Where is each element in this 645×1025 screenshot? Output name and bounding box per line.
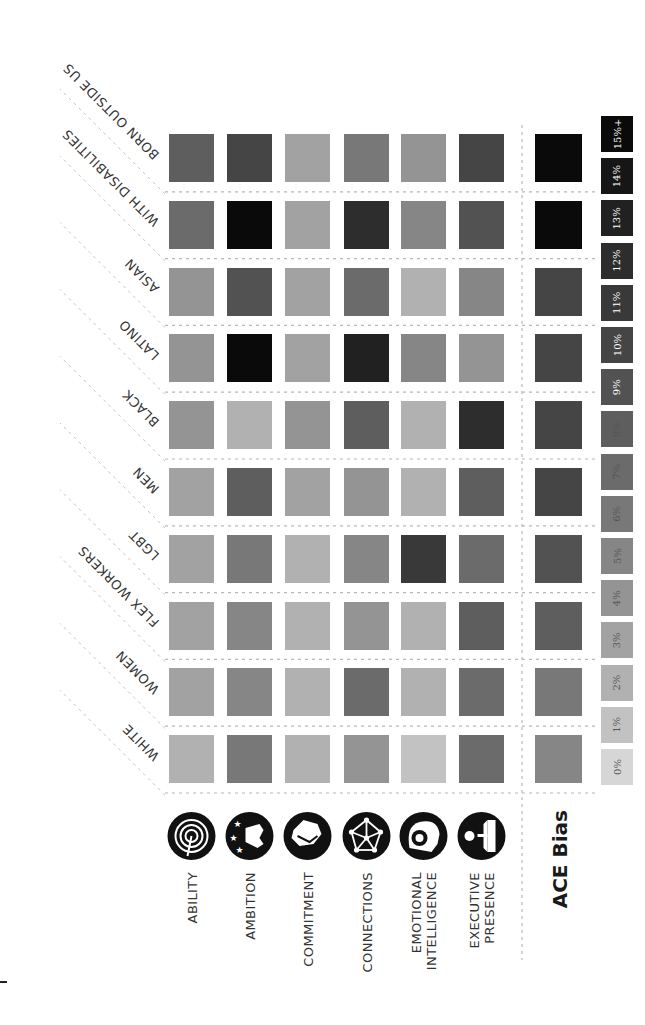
heatmap-cell <box>169 401 214 449</box>
heatmap-cell <box>227 735 272 783</box>
legend-label: 7% <box>612 464 623 480</box>
heatmap-cell <box>401 268 446 316</box>
heatmap-cell <box>459 468 504 516</box>
legend-label: 0% <box>612 759 623 775</box>
heatmap-cell <box>459 535 504 583</box>
heatmap-cell <box>285 602 330 650</box>
heatmap-cell <box>285 401 330 449</box>
legend-label: 3% <box>612 632 623 648</box>
ace-bias-heatmap: 15%+14%13%12%11%10%9%8%7%6%5%4%3%2%1%0% … <box>0 0 645 1025</box>
ace-bias-label: ACE Bias <box>548 810 572 908</box>
trait-label: EXECUTIVE <box>467 872 482 948</box>
podium-speaker-icon <box>458 812 506 860</box>
heatmap-cell <box>285 668 330 716</box>
legend-label: 12% <box>612 249 623 271</box>
heatmap-cell <box>285 535 330 583</box>
heatmap-cell <box>344 201 389 249</box>
head-heart-icon <box>400 812 448 860</box>
heatmap-cell <box>169 535 214 583</box>
heatmap-cell <box>401 468 446 516</box>
heatmap-cell <box>344 468 389 516</box>
group-label: MEN <box>130 464 162 496</box>
ace-bias-cell <box>535 735 582 783</box>
group-label: WOMEN <box>113 648 162 697</box>
heatmap-cell <box>401 334 446 382</box>
heatmap-cell <box>344 602 389 650</box>
trait-label: COMMITMENT <box>301 872 316 967</box>
heatmap-cell <box>344 668 389 716</box>
legend-label: 6% <box>612 506 623 522</box>
ace-bias-cell <box>535 602 582 650</box>
heatmap-cell <box>344 134 389 182</box>
heatmap-cell <box>459 735 504 783</box>
legend-label: 14% <box>612 165 623 187</box>
ace-bias-cell <box>535 535 582 583</box>
group-label: ASIAN <box>122 256 162 296</box>
heatmap-cell <box>344 401 389 449</box>
svg-text:★: ★ <box>233 819 241 829</box>
heatmap-cell <box>401 668 446 716</box>
ace-bias-cell <box>535 268 582 316</box>
heatmap-cell <box>344 334 389 382</box>
group-label: BLACK <box>120 387 163 430</box>
ace-bias-cell <box>535 334 582 382</box>
trait-labels: ABILITYAMBITIONCOMMITMENTCONNECTIONSEMOT… <box>185 872 498 973</box>
trait-label: EMOTIONAL <box>409 872 424 953</box>
group-label: WHITE <box>120 721 163 764</box>
ace-bias-cell <box>535 668 582 716</box>
handshake-icon <box>284 812 332 860</box>
heatmap-cell <box>169 468 214 516</box>
svg-text:★: ★ <box>229 833 237 843</box>
heatmap-cell <box>227 134 272 182</box>
heatmap-cell <box>169 602 214 650</box>
heatmap-cell <box>227 268 272 316</box>
heatmap-cell <box>401 201 446 249</box>
heatmap-cell <box>285 468 330 516</box>
trait-label: INTELLIGENCE <box>424 872 439 970</box>
heatmap-cell <box>401 535 446 583</box>
heatmap-cell <box>285 268 330 316</box>
legend-label: 10% <box>612 334 623 356</box>
legend-label: 4% <box>612 590 623 606</box>
heatmap-cell <box>459 134 504 182</box>
heatmap-cell <box>285 134 330 182</box>
heatmap-cell <box>285 334 330 382</box>
group-label: LATINO <box>116 317 162 363</box>
heatmap-cell <box>285 735 330 783</box>
group-labels: BORN OUTSIDE USWITH DISABILITIESASIANLAT… <box>59 61 162 764</box>
heatmap-cell <box>401 602 446 650</box>
legend-label: 1% <box>612 717 623 733</box>
heatmap-cell <box>459 668 504 716</box>
ace-bias-cell <box>535 468 582 516</box>
ace-bias-cell <box>535 134 582 182</box>
legend-label: 2% <box>612 675 623 691</box>
heatmap-cell <box>227 334 272 382</box>
trait-label: PRESENCE <box>482 872 497 944</box>
heatmap-cell <box>344 535 389 583</box>
trait-label: AMBITION <box>243 872 258 940</box>
trait-label: ABILITY <box>185 872 200 923</box>
network-icon <box>343 812 391 860</box>
legend-label: 13% <box>612 207 623 229</box>
target-icon <box>168 812 216 860</box>
heatmap-cell <box>169 134 214 182</box>
heatmap-cell <box>459 268 504 316</box>
heatmap-cell <box>227 602 272 650</box>
heatmap-cell <box>401 735 446 783</box>
legend-label: 8% <box>612 421 623 437</box>
heatmap-cell <box>459 401 504 449</box>
heatmap-cell <box>344 268 389 316</box>
heatmap-cell <box>227 468 272 516</box>
heatmap-cell <box>459 602 504 650</box>
color-legend: 15%+14%13%12%11%10%9%8%7%6%5%4%3%2%1%0% <box>601 116 633 785</box>
heatmap-cell <box>285 201 330 249</box>
heatmap-cell <box>227 401 272 449</box>
ace-bias-cell <box>535 401 582 449</box>
heatmap-cell <box>227 535 272 583</box>
heatmap-cell <box>227 201 272 249</box>
heatmap-cell <box>227 668 272 716</box>
heatmap-cell <box>169 735 214 783</box>
heatmap-cell <box>459 334 504 382</box>
svg-text:★: ★ <box>235 845 243 855</box>
group-label: LGBT <box>126 527 162 563</box>
